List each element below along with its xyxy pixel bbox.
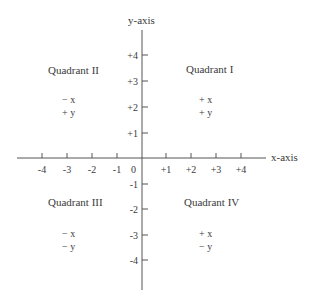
quadrant-4-title: Quadrant IV [184,196,239,208]
quadrant-2-title: Quadrant II [48,64,99,76]
x-tick-label: +4 [236,164,247,175]
x-tick-label: +2 [186,164,197,175]
quadrant-2-y-sign: + y [62,107,75,118]
y-tick-label: -3 [130,230,138,241]
x-tick-label: -4 [38,164,46,175]
x-tick-label: -3 [63,164,71,175]
x-tick-label: -1 [113,164,121,175]
quadrant-4-x-sign: + x [199,228,212,239]
y-tick-label: +4 [127,50,138,61]
y-axis-label: y-axis [128,14,155,26]
quadrant-3-title: Quadrant III [48,196,103,208]
quadrant-3-x-sign: − x [62,228,75,239]
origin-label: 0 [131,164,136,175]
y-tick-label: -1 [130,179,138,190]
x-tick-label: +1 [161,164,172,175]
coordinate-plane-diagram: y-axis x-axis 0 -4 -3 -2 -1 +1 +2 +3 +4 … [0,0,321,302]
quadrant-1-title: Quadrant I [186,63,234,75]
quadrant-4-y-sign: − y [199,241,212,252]
x-axis-label: x-axis [271,151,298,163]
x-tick-label: +3 [211,164,222,175]
y-tick-label: +3 [127,76,138,87]
y-tick-label: -2 [130,204,138,215]
quadrant-1-y-sign: + y [199,107,212,118]
y-tick-label: -4 [130,255,138,266]
quadrant-3-y-sign: − y [62,241,75,252]
y-tick-label: +1 [127,128,138,139]
quadrant-1-x-sign: + x [199,94,212,105]
y-tick-label: +2 [127,102,138,113]
x-tick-label: -2 [88,164,96,175]
quadrant-2-x-sign: − x [62,94,75,105]
